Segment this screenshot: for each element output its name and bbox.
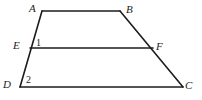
vertex-label-B: B	[126, 4, 133, 15]
vertex-label-A: A	[29, 3, 36, 14]
vertex-label-F: F	[156, 41, 163, 52]
figure-canvas	[0, 0, 202, 100]
vertex-label-E: E	[13, 40, 20, 51]
angle-label-1: 1	[36, 38, 41, 48]
geometry-figure: A B E F D C 1 2	[0, 0, 202, 100]
vertex-label-C: C	[185, 80, 192, 91]
angle-label-2: 2	[26, 75, 31, 85]
vertex-label-D: D	[3, 79, 11, 90]
